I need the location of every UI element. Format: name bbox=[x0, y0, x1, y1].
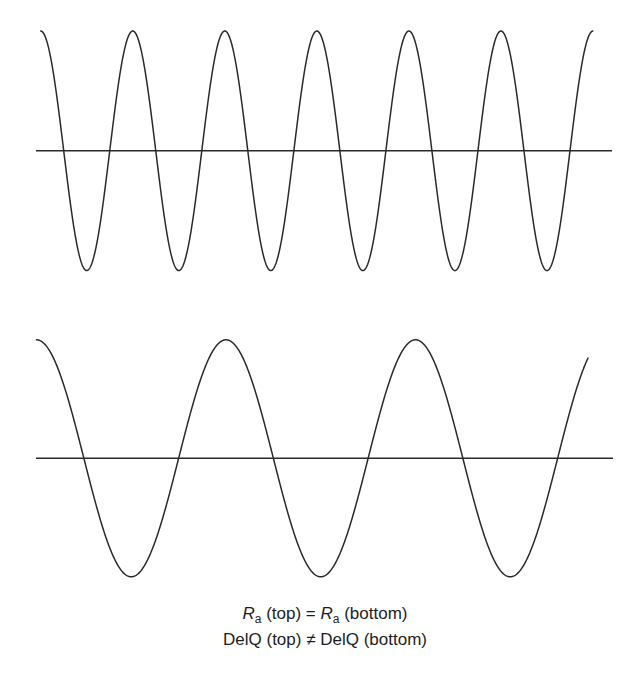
caption: Ra (top) = Ra (bottom) DelQ (top) ≠ DelQ… bbox=[223, 604, 427, 649]
roughness-comparison-figure: Ra (top) = Ra (bottom) DelQ (top) ≠ DelQ… bbox=[0, 0, 635, 684]
top-panel bbox=[36, 31, 612, 271]
caption-line-ra: Ra (top) = Ra (bottom) bbox=[242, 604, 407, 626]
caption-line-delq: DelQ (top) ≠ DelQ (bottom) bbox=[223, 630, 427, 649]
bottom-panel bbox=[36, 340, 613, 577]
